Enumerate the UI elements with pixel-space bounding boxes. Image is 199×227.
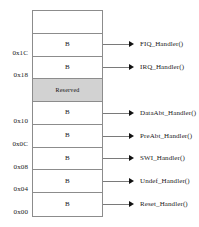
instruction-label: B xyxy=(65,132,70,139)
vector-row-irq: B xyxy=(33,57,102,80)
vector-row-data-abort: B xyxy=(33,102,102,125)
connector-line-prefetch-abort xyxy=(103,136,129,137)
arrowhead-icon xyxy=(129,133,134,139)
vector-row-empty xyxy=(33,11,102,34)
address-label: 0x04 xyxy=(0,186,28,193)
address-label-row-8: 0x00 xyxy=(0,209,28,218)
connector-line-data-abort xyxy=(103,113,129,114)
arrowhead-icon xyxy=(129,178,134,184)
vector-row-undefined: B xyxy=(33,170,102,193)
vector-row-prefetch-abort: B xyxy=(33,125,102,148)
instruction-label: B xyxy=(65,155,70,162)
instruction-label: B xyxy=(65,201,70,208)
connector-line-undefined xyxy=(103,181,129,182)
address-label-row-7: 0x04 xyxy=(0,186,28,195)
address-label-row-2: 0x18 xyxy=(0,72,28,81)
address-label: 0x08 xyxy=(0,164,28,171)
reserved-label: Reserved xyxy=(55,87,81,93)
address-label: 0x10 xyxy=(0,118,28,125)
address-label: 0x00 xyxy=(0,209,28,216)
vector-table: B B Reserved B B B B B xyxy=(32,10,103,217)
connector-line-reset xyxy=(103,204,129,205)
instruction-label: B xyxy=(65,41,70,48)
handler-label-data-abort: DataAbt_Handler() xyxy=(140,110,196,117)
vector-row-reserved: Reserved xyxy=(33,79,102,102)
connector-line-irq xyxy=(103,67,129,68)
connector-line-fiq xyxy=(103,44,129,45)
address-label-row-6: 0x08 xyxy=(0,164,28,173)
instruction-label: B xyxy=(65,109,70,116)
handler-label-fiq: FIQ_Handler() xyxy=(140,41,183,48)
address-label-row-4: 0x10 xyxy=(0,118,28,127)
handler-label-prefetch-abort: PreAbt_Handler() xyxy=(140,133,192,140)
arrowhead-icon xyxy=(129,201,134,207)
address-label: 0x0C xyxy=(0,141,28,148)
address-label: 0x1C xyxy=(0,50,28,57)
handler-label-undefined: Undef_Handler() xyxy=(140,178,190,185)
handler-label-irq: IRQ_Handler() xyxy=(140,64,184,71)
instruction-label: B xyxy=(65,64,70,71)
handler-label-swi: SWI_Handler() xyxy=(140,155,185,162)
connector-line-swi xyxy=(103,158,129,159)
vector-table-diagram: 0x1C 0x18 0x10 0x0C 0x08 0x04 0x00 B B xyxy=(0,0,199,227)
arrowhead-icon xyxy=(129,110,134,116)
arrowhead-icon xyxy=(129,41,134,47)
arrowhead-icon xyxy=(129,155,134,161)
vector-row-swi: B xyxy=(33,148,102,171)
handler-label-reset: Reset_Handler() xyxy=(140,201,188,208)
address-label-row-5: 0x0C xyxy=(0,141,28,150)
vector-row-fiq: B xyxy=(33,34,102,57)
arrowhead-icon xyxy=(129,64,134,70)
address-label-row-1: 0x1C xyxy=(0,50,28,59)
instruction-label: B xyxy=(65,178,70,185)
address-label: 0x18 xyxy=(0,72,28,79)
vector-row-reset: B xyxy=(33,193,102,216)
